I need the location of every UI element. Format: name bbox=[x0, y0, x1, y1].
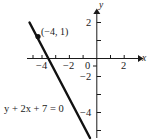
x-tick-label-neg4: −4 bbox=[36, 61, 47, 72]
y-axis bbox=[93, 9, 101, 139]
point-callout-label: (−4, 1) bbox=[41, 27, 68, 37]
equation-label: y + 2x + 7 = 0 bbox=[4, 104, 64, 115]
x-tick-label-neg2: −2 bbox=[63, 61, 74, 72]
y-tick-label-neg4: −4 bbox=[80, 108, 91, 119]
x-axis-label: x bbox=[142, 54, 146, 64]
coordinate-plane bbox=[0, 0, 149, 140]
y-tick-label-2: 2 bbox=[86, 18, 91, 29]
x-tick-label-0: 0 bbox=[85, 61, 90, 72]
y-axis-label: y bbox=[99, 1, 103, 11]
x-tick-label-2: 2 bbox=[121, 61, 126, 72]
y-tick-label-neg2: −2 bbox=[80, 72, 91, 83]
graph-figure: −4 −2 0 2 2 −2 −4 y x (−4, 1) y + 2x + 7… bbox=[0, 0, 149, 140]
plotted-point bbox=[35, 34, 40, 39]
